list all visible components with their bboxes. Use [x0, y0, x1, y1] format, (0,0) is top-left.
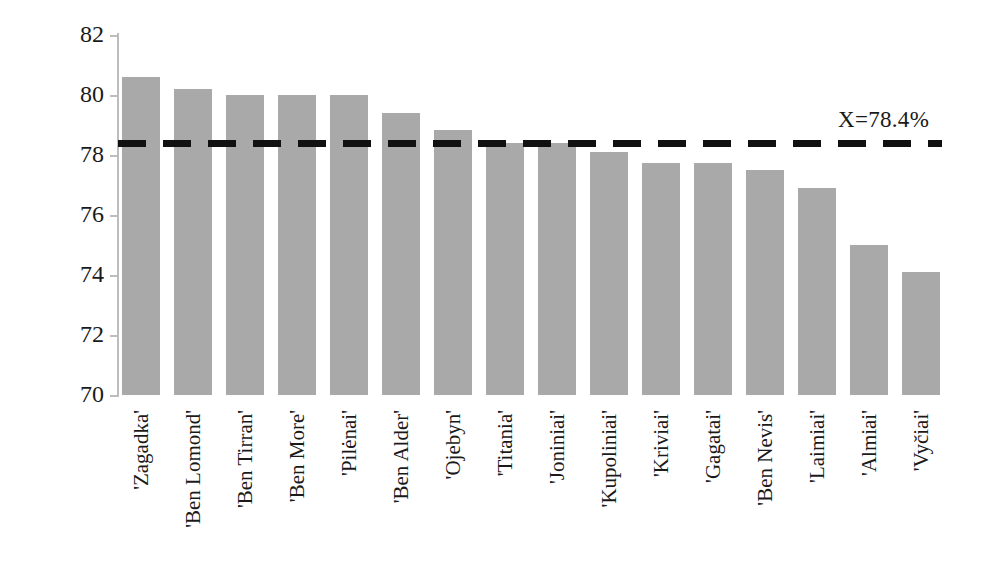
x-axis-label-text: 'Ben Lomond' — [183, 410, 203, 528]
x-axis-label-text: 'Kriviai' — [651, 410, 671, 477]
bar — [642, 163, 680, 396]
bar — [382, 113, 420, 395]
y-tick-label: 72 — [58, 319, 104, 349]
bar — [174, 89, 212, 395]
x-axis-label: 'Ben More' — [287, 391, 307, 429]
y-tick-label: 70 — [58, 379, 104, 409]
y-tick-label: 74 — [58, 259, 104, 289]
x-axis-label-text: 'Kupoliniai' — [599, 410, 619, 507]
y-tick-label: 82 — [58, 19, 104, 49]
x-axis-label-text: 'Vyčiai' — [911, 410, 931, 471]
x-axis-label: 'Gagatai' — [703, 391, 723, 429]
x-axis-label: 'Vyčiai' — [911, 391, 931, 429]
bar — [694, 163, 732, 396]
x-axis-label: 'Ojebyn' — [443, 391, 463, 429]
x-axis-label-text: 'Ben Alder' — [391, 410, 411, 503]
x-axis-label: 'Kriviai' — [651, 391, 671, 429]
mean-reference-line — [118, 140, 942, 147]
y-tick-label: 76 — [58, 199, 104, 229]
x-axis-label-text: 'Ben Tirran' — [235, 410, 255, 508]
bar — [746, 170, 784, 395]
x-axis-label-text: 'Zagadka' — [131, 410, 151, 490]
x-axis-label: 'Pilėnai' — [339, 391, 359, 429]
bar — [902, 272, 940, 395]
x-axis-label: 'Ben Nevis' — [755, 391, 775, 429]
bar — [850, 245, 888, 395]
x-axis-label: 'Laimiai' — [807, 391, 827, 429]
bar — [434, 130, 472, 396]
x-axis-label: 'Almiai' — [859, 391, 879, 429]
bar — [486, 143, 524, 395]
bar — [122, 77, 160, 395]
x-axis-label-text: 'Laimiai' — [807, 410, 827, 483]
y-tick-label: 80 — [58, 79, 104, 109]
x-axis-label-text: 'Ben More' — [287, 410, 307, 502]
y-tick-mark — [110, 395, 119, 397]
x-axis-label: 'Kupoliniai' — [599, 391, 619, 429]
x-axis-label: 'Titania' — [495, 391, 515, 429]
x-axis-label: 'Zagadka' — [131, 391, 151, 429]
x-axis-label: 'Joniniai' — [547, 391, 567, 429]
x-axis-label: 'Ben Lomond' — [183, 391, 203, 429]
bars-layer — [118, 35, 966, 395]
y-tick-label: 78 — [58, 139, 104, 169]
bar — [590, 152, 628, 395]
x-axis-label-text: 'Ben Nevis' — [755, 410, 775, 506]
x-axis-label-text: 'Pilėnai' — [339, 410, 359, 476]
x-axis-label-text: 'Ojebyn' — [443, 410, 463, 479]
x-axis-label-text: 'Joniniai' — [547, 410, 567, 484]
x-axis-labels: 'Zagadka''Ben Lomond''Ben Tirran''Ben Mo… — [118, 400, 966, 576]
bar — [798, 188, 836, 395]
plot-area — [118, 35, 966, 395]
x-axis-label: 'Ben Tirran' — [235, 391, 255, 429]
x-axis-label-text: 'Titania' — [495, 410, 515, 476]
x-axis-label-text: 'Gagatai' — [703, 410, 723, 483]
x-axis-label-text: 'Almiai' — [859, 410, 879, 476]
mean-reference-label: X=78.4% — [838, 107, 929, 133]
x-axis-label: 'Ben Alder' — [391, 391, 411, 429]
bar — [538, 143, 576, 395]
bar-chart: RSA,% 70727476788082 X=78.4% 'Zagadka''B… — [0, 0, 985, 576]
